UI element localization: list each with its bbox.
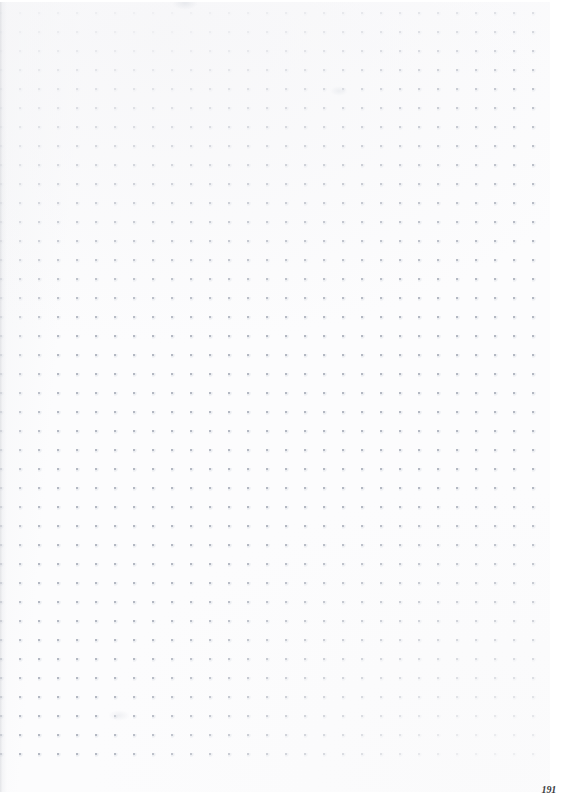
page-number: 191 bbox=[542, 785, 556, 795]
notebook-page-scan: 191 bbox=[0, 0, 562, 808]
paper-sheet bbox=[0, 0, 562, 808]
